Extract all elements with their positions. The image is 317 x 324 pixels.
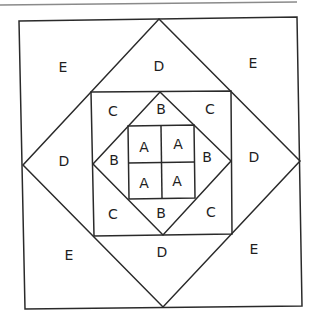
top-rule-line	[0, 2, 297, 5]
label-d-left: D	[59, 153, 70, 169]
label-c-top-left: C	[108, 103, 118, 119]
label-b-left: B	[109, 152, 119, 168]
label-d-bottom: D	[157, 244, 168, 260]
label-c-bottom-right: C	[206, 204, 216, 220]
center-horizontal	[128, 162, 195, 163]
label-d-top: D	[154, 58, 165, 74]
label-c-bottom-left: C	[108, 206, 118, 222]
label-b-right: B	[202, 149, 212, 165]
label-e-bottom-left: E	[65, 247, 74, 263]
label-e-bottom-right: E	[250, 241, 259, 257]
label-b-top: B	[156, 101, 166, 117]
label-a-top-left: A	[139, 139, 149, 155]
label-a-top-right: A	[173, 136, 183, 152]
label-e-top-right: E	[249, 55, 258, 71]
label-a-bottom-right: A	[172, 173, 182, 189]
label-b-bottom: B	[156, 205, 166, 221]
pattern-divider-lines	[128, 126, 195, 198]
quilt-diagram: EDEDDEDECCCCBBBBAAAA	[0, 0, 317, 324]
label-c-top-right: C	[205, 101, 215, 117]
label-d-right: D	[249, 149, 260, 165]
quilt-diagram-canvas: EDEDDEDECCCCBBBBAAAA	[0, 0, 317, 324]
label-e-top-left: E	[59, 59, 68, 75]
label-a-bottom-left: A	[139, 175, 149, 191]
